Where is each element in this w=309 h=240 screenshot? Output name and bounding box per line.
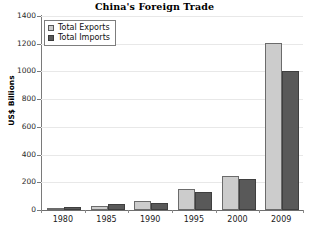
legend-label-imports: Total Imports bbox=[58, 33, 110, 43]
y-tick: 600 bbox=[0, 122, 36, 132]
x-tick-label: 2009 bbox=[259, 215, 303, 224]
bar-imports bbox=[151, 203, 168, 210]
bar-imports bbox=[108, 204, 125, 210]
bar-imports bbox=[239, 179, 256, 210]
bar-imports bbox=[282, 71, 299, 210]
bar-imports bbox=[64, 207, 81, 210]
x-tick-label: 1990 bbox=[128, 215, 172, 224]
x-tick-mark bbox=[128, 210, 129, 213]
bar-exports bbox=[222, 176, 239, 211]
y-tick: 1400 bbox=[0, 11, 36, 21]
x-tick-label: 2000 bbox=[216, 215, 260, 224]
bar-exports bbox=[265, 43, 282, 210]
legend-swatch-exports-icon bbox=[48, 25, 54, 31]
bar-imports bbox=[195, 192, 212, 210]
x-tick-mark bbox=[172, 210, 173, 213]
y-tick-label: 800 bbox=[2, 94, 36, 103]
bar-group bbox=[178, 16, 212, 210]
y-tick-label: 1400 bbox=[2, 11, 36, 20]
x-tick-label: 1980 bbox=[41, 215, 85, 224]
y-tick: 1200 bbox=[0, 39, 36, 49]
x-tick-label: 1985 bbox=[85, 215, 129, 224]
bar-group bbox=[265, 16, 299, 210]
bar-exports bbox=[178, 189, 195, 210]
x-tick-mark bbox=[41, 210, 42, 213]
y-tick-label: 600 bbox=[2, 122, 36, 131]
y-tick: 1000 bbox=[0, 66, 36, 76]
legend-item-exports: Total Exports bbox=[48, 23, 110, 33]
y-tick-label: 1000 bbox=[2, 66, 36, 75]
legend-item-imports: Total Imports bbox=[48, 33, 110, 43]
legend-swatch-imports-icon bbox=[48, 35, 54, 41]
x-tick-mark bbox=[85, 210, 86, 213]
bar-group bbox=[134, 16, 168, 210]
bar-exports bbox=[91, 206, 108, 210]
bar-exports bbox=[47, 208, 64, 210]
y-tick: 200 bbox=[0, 177, 36, 187]
y-tick: 400 bbox=[0, 150, 36, 160]
chart-container: China's Foreign Trade US$ Billions 02004… bbox=[0, 0, 309, 240]
x-tick-mark bbox=[216, 210, 217, 213]
chart-title: China's Foreign Trade bbox=[0, 1, 309, 12]
y-tick-label: 200 bbox=[2, 177, 36, 186]
x-tick-mark bbox=[303, 210, 304, 213]
bar-group bbox=[222, 16, 256, 210]
chart-legend: Total Exports Total Imports bbox=[44, 20, 116, 46]
x-tick-mark bbox=[259, 210, 260, 213]
bar-exports bbox=[134, 201, 151, 210]
y-tick: 800 bbox=[0, 94, 36, 104]
y-tick-label: 1200 bbox=[2, 39, 36, 48]
legend-label-exports: Total Exports bbox=[58, 23, 110, 33]
y-tick-label: 0 bbox=[2, 205, 36, 214]
x-tick-label: 1995 bbox=[172, 215, 216, 224]
y-tick-label: 400 bbox=[2, 150, 36, 159]
y-tick: 0 bbox=[0, 205, 36, 215]
